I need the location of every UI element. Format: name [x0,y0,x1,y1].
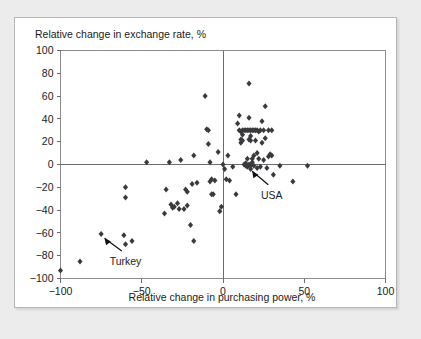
data-point [175,200,180,206]
data-point [203,93,208,99]
y-tick-label: −40 [36,204,54,216]
data-point [256,156,261,162]
data-point [264,165,269,171]
annotation-label-usa: USA [261,189,283,201]
data-point [164,187,169,193]
data-point [246,115,251,121]
annotation-arrow-head [252,171,258,178]
data-point [237,112,242,118]
data-point [216,149,221,155]
y-tick-label: −20 [36,181,54,193]
data-point [162,211,167,217]
data-point [178,157,183,163]
data-point [263,103,268,109]
data-point [246,81,251,87]
data-point [233,191,238,197]
data-point [185,203,190,209]
y-tick-label: 60 [42,90,54,102]
data-point [235,120,240,126]
data-point [181,206,186,212]
data-point [271,172,276,178]
y-tick-label: 40 [42,113,54,125]
data-point [191,152,196,158]
data-points-layer [58,81,310,274]
y-axis-title: Relative change in exchange rate, % [35,28,206,40]
data-point [58,268,63,274]
data-point [191,238,196,244]
y-tick-label: 80 [42,67,54,79]
data-point [259,118,264,124]
data-point [77,258,82,264]
data-point [253,138,258,144]
y-tick-label: 20 [42,135,54,147]
data-point [123,195,128,201]
data-point [277,163,282,169]
data-point [263,135,268,141]
annotation-arrow-head [105,238,111,245]
data-point [123,241,128,247]
y-axis-ticks: 100806040200−20−40−60−80−100 [30,44,61,284]
data-point [261,157,266,163]
x-axis-ticks: −100−50050100 [49,279,395,297]
data-point [99,231,104,237]
x-tick-label: −100 [49,285,73,297]
y-tick-label: −80 [36,249,54,261]
annotations-layer: TurkeyUSA [105,171,283,267]
y-tick-label: −60 [36,227,54,239]
data-point [188,222,193,228]
data-point [259,140,264,146]
x-tick-label: 100 [377,285,395,297]
data-point [194,180,199,186]
data-point [290,179,295,185]
data-point [261,127,266,133]
data-point [177,206,182,212]
data-point [225,152,230,158]
data-point [206,141,211,147]
y-tick-label: 0 [48,158,54,170]
data-point [269,127,274,133]
data-point [190,181,195,187]
chart-figure: Relative change in exchange rate, % Rela… [0,0,421,339]
x-tick-label: 0 [220,285,226,297]
y-tick-label: 100 [36,44,54,56]
x-tick-label: 50 [298,285,310,297]
scatter-plot-svg: Relative change in exchange rate, % Rela… [0,0,421,339]
y-tick-label: −100 [30,272,54,284]
data-point [305,163,310,169]
annotation-label-turkey: Turkey [110,255,142,267]
data-point [123,184,128,190]
x-tick-label: −50 [133,285,151,297]
data-point [129,238,134,244]
data-point [121,232,126,238]
